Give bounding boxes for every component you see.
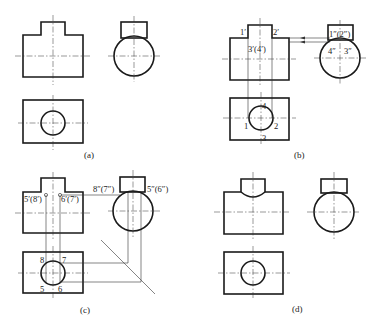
side-view-c — [108, 170, 160, 238]
side-view-d — [307, 172, 360, 240]
label-1-prime: 1′ — [240, 27, 246, 37]
top-view-c — [18, 246, 141, 300]
label-8: 8 — [40, 255, 44, 265]
label-3: 3 — [262, 133, 266, 143]
panel-d: (d) — [214, 172, 360, 314]
label-5-6-double-prime: 5″(6″) — [147, 184, 168, 194]
label-5-8-prime: 5′(8′) — [24, 194, 42, 204]
label-3-double-prime: 3″ — [344, 46, 352, 56]
label-1: 1 — [244, 121, 248, 131]
top-view-b — [223, 92, 296, 145]
label-8-7-double-prime: 8″(7″) — [93, 184, 114, 194]
label-6-7-prime: 6′(7′) — [61, 194, 79, 204]
orthographic-projection-figure: (a) 1′ 2′ 3′(4′) 1″(2″) — [0, 0, 376, 330]
label-6: 6 — [58, 284, 62, 294]
label-5: 5 — [40, 284, 44, 294]
label-1-2-double-prime: 1″(2″) — [329, 29, 350, 39]
label-4-double-prime: 4″ — [328, 46, 336, 56]
label-2: 2 — [274, 121, 278, 131]
top-view-d — [218, 246, 290, 300]
caption-d: (d) — [292, 304, 303, 314]
side-view-a — [108, 16, 160, 82]
panel-b: 1′ 2′ 3′(4′) 1″(2″) 4″ 3″ 1 2 3 4 (b) — [222, 18, 366, 160]
panel-a: (a) — [15, 15, 160, 160]
label-4: 4 — [262, 101, 267, 111]
label-2-prime: 2′ — [273, 27, 279, 37]
front-view-d — [224, 179, 283, 234]
caption-b: (b) — [294, 150, 305, 160]
top-view-a — [18, 95, 88, 150]
label-7: 7 — [62, 255, 66, 265]
caption-c: (c) — [80, 305, 90, 315]
label-3-4-prime: 3′(4′) — [248, 44, 266, 54]
panel-c: 5′(8′) 6′(7′) 8″(7″) 5″(6″) 8 7 5 6 (c) — [15, 170, 168, 315]
caption-a: (a) — [84, 150, 94, 160]
